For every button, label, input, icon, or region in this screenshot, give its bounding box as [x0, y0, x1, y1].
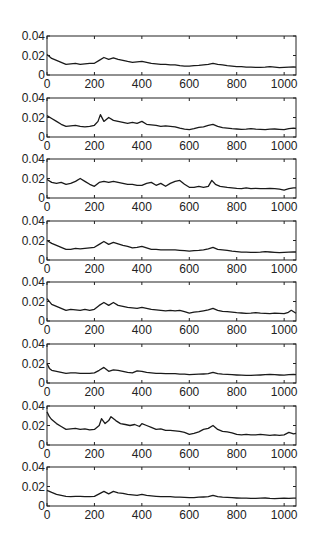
x-tick-label: 800 [227, 200, 247, 214]
y-tick-label: 0.04 [22, 152, 46, 166]
y-tick-label: 0 [38, 438, 45, 452]
x-tick-label: 600 [179, 508, 199, 522]
x-tick-label: 1000 [271, 77, 298, 91]
x-tick-label: 400 [132, 139, 152, 153]
x-tick-label: 400 [132, 323, 152, 337]
x-tick-label: 200 [84, 447, 104, 461]
x-tick-label: 400 [132, 508, 152, 522]
x-tick-label: 1000 [271, 262, 298, 276]
y-tick-label: 0.02 [22, 357, 46, 371]
x-tick-label: 800 [227, 77, 247, 91]
y-tick-label: 0.04 [22, 91, 46, 105]
y-tick-label: 0 [38, 253, 45, 267]
x-tick-label: 800 [227, 323, 247, 337]
x-tick-label: 1000 [271, 508, 298, 522]
y-tick-label: 0 [38, 191, 45, 205]
x-tick-label: 200 [84, 200, 104, 214]
x-tick-label: 600 [179, 385, 199, 399]
x-tick-label: 800 [227, 508, 247, 522]
x-tick-label: 1000 [271, 139, 298, 153]
x-tick-label: 200 [84, 77, 104, 91]
x-tick-label: 600 [179, 77, 199, 91]
x-tick-label: 200 [84, 323, 104, 337]
y-tick-label: 0 [38, 130, 45, 144]
x-tick-label: 600 [179, 262, 199, 276]
y-tick-label: 0.02 [22, 234, 46, 248]
x-tick-label: 1000 [271, 200, 298, 214]
x-tick-label: 200 [84, 508, 104, 522]
y-tick-label: 0 [38, 68, 45, 82]
x-tick-label: 400 [132, 447, 152, 461]
y-tick-label: 0.04 [22, 29, 46, 43]
x-tick-label: 800 [227, 447, 247, 461]
y-tick-label: 0.04 [22, 460, 46, 474]
figure-canvas: 0200400600800100000.020.0402004006008001… [0, 0, 313, 548]
y-tick-label: 0.02 [22, 419, 46, 433]
x-tick-label: 600 [179, 323, 199, 337]
x-tick-label: 1000 [271, 385, 298, 399]
x-tick-label: 600 [179, 139, 199, 153]
x-tick-label: 400 [132, 385, 152, 399]
y-tick-label: 0.02 [22, 172, 46, 186]
y-tick-label: 0 [38, 499, 45, 513]
x-tick-label: 400 [132, 262, 152, 276]
x-tick-label: 600 [179, 200, 199, 214]
x-tick-label: 800 [227, 139, 247, 153]
y-tick-label: 0.02 [22, 111, 46, 125]
y-tick-label: 0.02 [22, 49, 46, 63]
x-tick-label: 600 [179, 447, 199, 461]
y-tick-label: 0 [38, 376, 45, 390]
x-tick-label: 200 [84, 139, 104, 153]
x-tick-label: 200 [84, 385, 104, 399]
x-tick-label: 1000 [271, 323, 298, 337]
y-tick-label: 0.04 [22, 214, 46, 228]
x-tick-label: 1000 [271, 447, 298, 461]
x-tick-label: 800 [227, 262, 247, 276]
y-tick-label: 0.04 [22, 399, 46, 413]
x-tick-label: 200 [84, 262, 104, 276]
y-tick-label: 0.04 [22, 275, 46, 289]
x-tick-label: 400 [132, 77, 152, 91]
y-tick-label: 0 [38, 314, 45, 328]
x-tick-label: 800 [227, 385, 247, 399]
x-tick-label: 400 [132, 200, 152, 214]
y-tick-label: 0.04 [22, 337, 46, 351]
y-tick-label: 0.02 [22, 295, 46, 309]
y-tick-label: 0.02 [22, 480, 46, 494]
